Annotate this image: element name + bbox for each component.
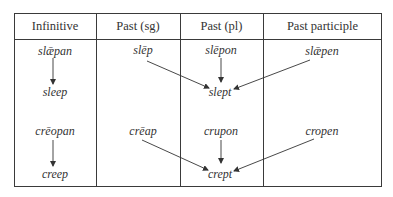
- column-divider-3: [263, 13, 264, 187]
- word-past-participle-creep: cropen: [306, 124, 339, 139]
- word-past-participle-sleep: slǣpen: [305, 44, 338, 59]
- column-divider-2: [180, 13, 181, 187]
- word-infinitive-sleep-oe: slǣpan: [38, 44, 72, 59]
- header-past-sg: Past (sg): [96, 13, 180, 39]
- header-past-pl: Past (pl): [180, 13, 263, 39]
- header-past-participle: Past participle: [263, 13, 382, 39]
- word-past-sg-creep: crēap: [129, 124, 156, 139]
- word-crept-modern: crept: [208, 167, 232, 182]
- word-sleep-modern: sleep: [43, 85, 68, 100]
- word-slept-modern: slept: [209, 85, 232, 100]
- header-infinitive: Infinitive: [14, 13, 96, 39]
- word-past-pl-creep: crupon: [204, 124, 238, 139]
- header-divider: [14, 39, 382, 40]
- word-past-pl-sleep: slēpon: [205, 43, 236, 58]
- word-creep-modern: creep: [42, 167, 68, 182]
- word-past-sg-sleep: slēp: [133, 43, 152, 58]
- word-infinitive-creep-oe: crēopan: [35, 124, 74, 139]
- column-divider-1: [96, 13, 97, 187]
